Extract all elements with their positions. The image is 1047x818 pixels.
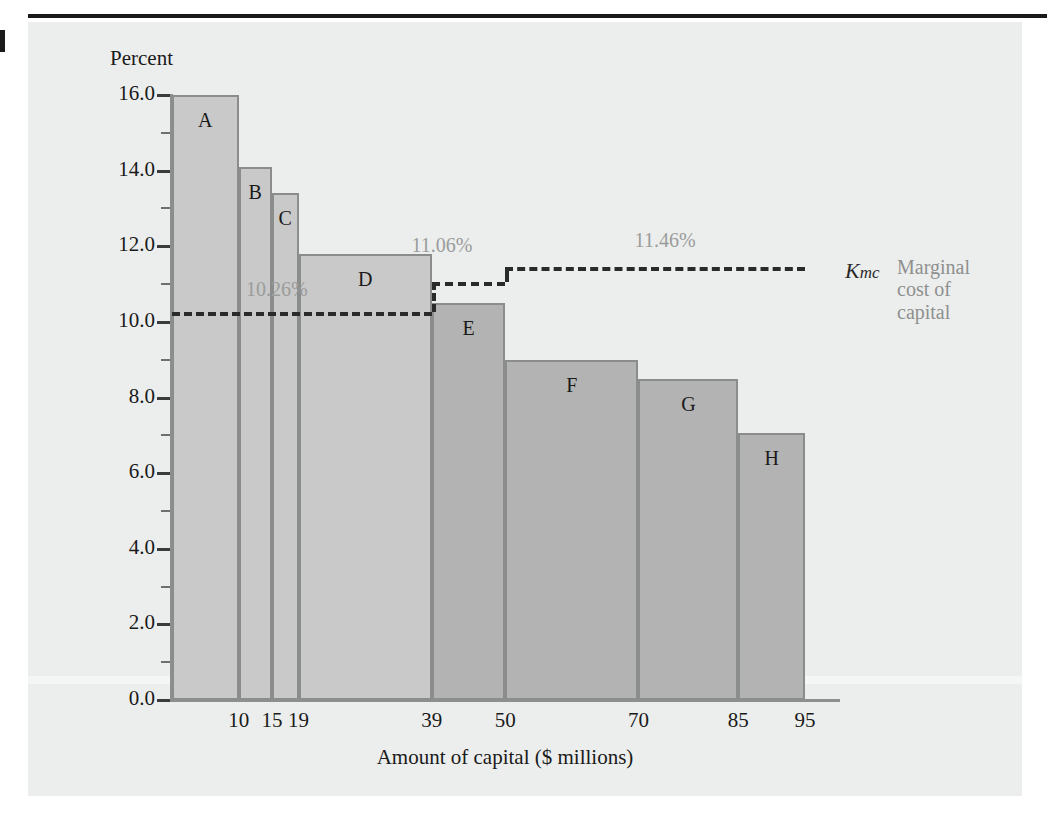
bar-label-b: B — [249, 181, 262, 204]
y-tick-label: 0.0 — [95, 686, 155, 711]
y-tick-label: 6.0 — [95, 459, 155, 484]
mcc-annotation-line-1: Marginal — [897, 256, 1027, 278]
mcc-segment-2 — [432, 282, 505, 286]
kmc-subscript: mc — [860, 263, 880, 282]
bar-b — [239, 167, 272, 700]
y-tick-label: 2.0 — [95, 610, 155, 635]
bar-label-f: F — [566, 374, 577, 397]
bar-label-e: E — [462, 317, 474, 340]
mcc-value-label: 11.06% — [411, 234, 472, 257]
x-tick-label: 95 — [795, 708, 816, 733]
x-tick-label: 70 — [628, 708, 649, 733]
kmc-symbol: K — [845, 258, 860, 283]
y-tick-label: 16.0 — [95, 81, 155, 106]
x-tick-label: 10 — [228, 708, 249, 733]
mcc-value-label: 11.46% — [635, 229, 696, 252]
x-tick-label: 19 — [288, 708, 309, 733]
bar-a — [172, 95, 239, 700]
y-tick-label: 8.0 — [95, 384, 155, 409]
y-tick-label: 14.0 — [95, 157, 155, 182]
bar-c — [272, 193, 299, 700]
y-axis-title: Percent — [110, 46, 173, 71]
y-tick-label: 12.0 — [95, 232, 155, 257]
mcc-riser-1 — [432, 282, 436, 312]
bar-label-c: C — [279, 207, 292, 230]
x-tick-label: 15 — [261, 708, 282, 733]
x-tick-label: 85 — [728, 708, 749, 733]
bar-d — [299, 254, 432, 700]
x-tick-label: 50 — [495, 708, 516, 733]
bar-f — [505, 360, 638, 700]
mcc-segment-1 — [172, 312, 432, 316]
mcc-value-label: 10.26% — [246, 278, 308, 301]
bar-label-g: G — [681, 393, 695, 416]
figure-panel: Percent 0.02.04.06.08.010.012.014.016.0 … — [0, 0, 1047, 818]
mcc-annotation-line-2: cost of — [897, 278, 1027, 300]
bar-label-d: D — [358, 268, 372, 291]
y-tick-label: 4.0 — [95, 535, 155, 560]
bar-g — [638, 379, 738, 700]
bar-label-a: A — [198, 109, 212, 132]
x-axis-line — [170, 699, 840, 702]
y-tick-label: 10.0 — [95, 308, 155, 333]
plot-area: Percent 0.02.04.06.08.010.012.014.016.0 … — [0, 0, 1047, 818]
x-axis-title: Amount of capital ($ millions) — [170, 745, 840, 770]
bar-h — [738, 433, 805, 700]
mcc-annotation-line-3: capital — [897, 301, 1027, 323]
kmc-symbol-label: Kmc — [845, 258, 880, 284]
mcc-annotation: Marginal cost of capital — [897, 256, 1027, 323]
bar-label-h: H — [764, 447, 778, 470]
bar-e — [432, 303, 505, 700]
mcc-segment-3 — [505, 267, 805, 271]
x-tick-label: 39 — [421, 708, 442, 733]
mcc-riser-2 — [505, 267, 509, 282]
